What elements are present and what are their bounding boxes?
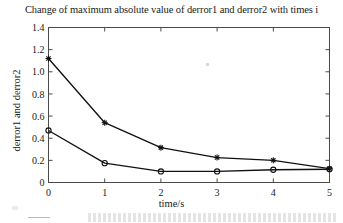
caption-strip [0,213,343,223]
artifact-speck [12,206,18,210]
artifact-speck [206,63,209,66]
y-tick-label: 0.8 [32,89,45,100]
x-tick-label: 4 [271,187,276,198]
figure-container: Change of maximum absolute value of derr… [0,0,343,223]
x-tick-label: 0 [46,187,51,198]
series-line-derror2 [49,130,330,171]
caption-blurred-text [88,213,338,222]
y-axis-label: derror1 and derror2 [11,41,22,181]
x-tick-label: 3 [215,187,220,198]
marker-derror1 [214,155,220,161]
y-tick-label: 1.0 [32,66,45,77]
x-tick-label: 1 [102,187,107,198]
x-tick-label: 5 [327,187,332,198]
y-tick-label: 1.4 [32,22,45,33]
y-tick-label: 0 [40,177,45,188]
marker-derror1 [102,120,108,126]
y-tick-label: 0.6 [32,111,45,122]
y-tick-label: 0.4 [32,133,45,144]
x-tick-label: 2 [158,187,163,198]
axes-group [49,28,330,183]
plot-box [49,28,330,183]
plot-canvas: 01234500.20.40.60.81.01.21.4 [0,0,343,223]
x-axis-label: time/s [0,198,343,209]
marker-derror1 [158,145,164,151]
y-tick-label: 1.2 [32,44,45,55]
series-group [46,56,333,175]
series-line-derror1 [49,59,330,169]
marker-derror1 [46,56,52,62]
y-tick-label: 0.2 [32,155,45,166]
caption-dash [28,217,50,218]
marker-derror1 [270,157,276,163]
